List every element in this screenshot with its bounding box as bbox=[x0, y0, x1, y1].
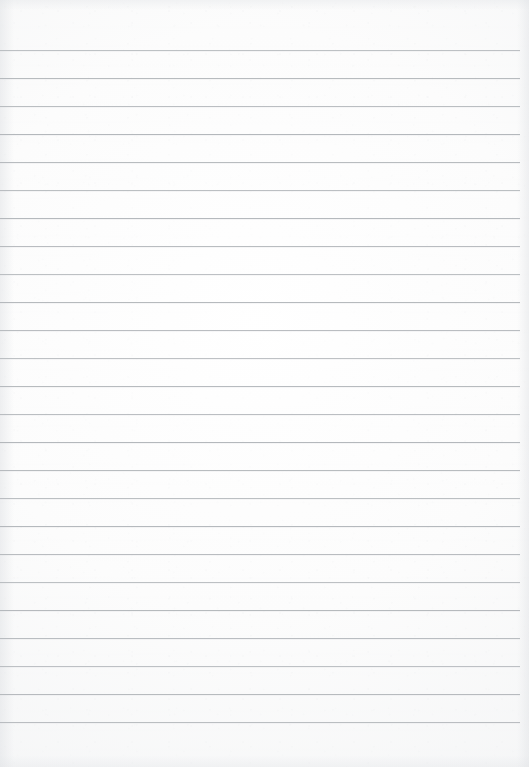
paper-background bbox=[0, 0, 529, 767]
lined-paper-page bbox=[0, 0, 529, 767]
